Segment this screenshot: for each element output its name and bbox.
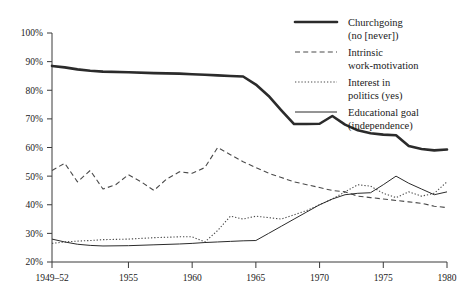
legend-label-intrinsic-work-motivation-line2: work-motivation xyxy=(348,60,419,71)
chart-container: 20%30%40%50%60%70%80%90%100% 1949–521955… xyxy=(0,0,462,296)
x-tick-label: 1960 xyxy=(183,273,202,283)
x-tick-label: 1970 xyxy=(310,273,329,283)
legend-label-churchgoing-line2: (no [never]) xyxy=(348,30,399,42)
y-tick-label: 50% xyxy=(26,172,44,182)
series-line xyxy=(52,182,447,244)
x-tick-label: 1980 xyxy=(438,273,457,283)
y-tick-label: 80% xyxy=(26,86,44,96)
line-chart: 20%30%40%50%60%70%80%90%100% 1949–521955… xyxy=(0,0,462,296)
x-tick-label: 1955 xyxy=(119,273,138,283)
x-axis: 1949–52195519601965197019751980 xyxy=(35,262,456,283)
legend-label-educational-goal: Educational goal xyxy=(348,107,419,118)
legend-label-interest-in-politics-line2: politics (yes) xyxy=(348,90,403,102)
x-tick-label: 1949–52 xyxy=(35,273,69,283)
legend-label-churchgoing: Churchgoing xyxy=(348,17,404,28)
legend-label-interest-in-politics: Interest in xyxy=(348,77,391,88)
chart-legend: Churchgoing(no [never])Intrinsicwork-mot… xyxy=(295,17,419,132)
y-tick-label: 20% xyxy=(26,257,44,267)
y-axis: 20%30%40%50%60%70%80%90%100% xyxy=(21,28,52,267)
y-tick-label: 30% xyxy=(26,229,44,239)
y-tick-label: 60% xyxy=(26,143,44,153)
y-tick-label: 90% xyxy=(26,57,44,67)
series-line xyxy=(52,148,447,208)
x-tick-label: 1975 xyxy=(374,273,393,283)
x-tick-label: 1965 xyxy=(246,273,265,283)
legend-label-intrinsic-work-motivation: Intrinsic xyxy=(348,47,383,58)
y-tick-label: 100% xyxy=(21,28,43,38)
y-tick-label: 70% xyxy=(26,114,44,124)
legend-label-educational-goal-line2: (independence) xyxy=(348,120,413,132)
y-tick-label: 40% xyxy=(26,200,44,210)
